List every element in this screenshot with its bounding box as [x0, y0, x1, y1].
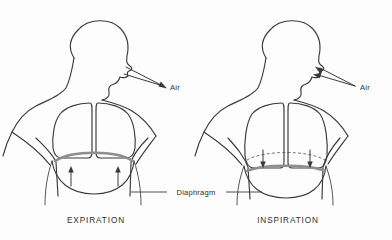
respiration-figure: Air EXPIRATION Diaphragm	[0, 0, 392, 240]
jaw-chest-expiration	[102, 100, 156, 136]
ribcage-left-inspiration	[228, 138, 250, 199]
panel-inspiration: Air INSPIRATION	[195, 21, 370, 225]
air-arrow-inspiration	[313, 67, 355, 87]
diaphragm-arrow-down-1-inspiration	[260, 150, 266, 168]
neck-shoulder-expiration	[3, 58, 74, 156]
head-back-expiration	[71, 30, 78, 58]
head-outline-inspiration	[270, 21, 324, 100]
torso-left-expiration	[12, 132, 50, 165]
diaphragm-arrow-up-2-expiration	[115, 166, 121, 186]
abdomen-right-side-inspiration	[326, 166, 333, 205]
abdomen-outline-expiration	[52, 161, 134, 194]
diaphragm-arrow-up-1-expiration	[68, 166, 74, 186]
head-outline-expiration	[78, 21, 132, 100]
diaphragm-callout: Diaphragm	[131, 188, 262, 197]
abdomen-right-side-expiration	[134, 161, 141, 205]
abdomen-left-side-inspiration	[237, 166, 244, 205]
abdomen-left-side-expiration	[45, 161, 52, 205]
diaphragm-arrow-down-2-inspiration	[307, 150, 313, 168]
abdomen-outline-inspiration	[244, 166, 326, 198]
diaphragm-inspiration	[247, 166, 325, 171]
diaphragm-expiration	[55, 153, 133, 161]
diaphragm-label: Diaphragm	[177, 188, 216, 197]
lung-right-inspiration	[288, 103, 327, 168]
lung-right-expiration	[96, 103, 135, 158]
air-label-expiration: Air	[170, 83, 180, 92]
diaphragm-previous-position-line	[247, 153, 325, 161]
ribcage-right-inspiration	[322, 138, 340, 199]
ribcage-left-expiration	[36, 138, 58, 196]
lung-left-inspiration	[245, 103, 284, 168]
air-label-inspiration: Air	[360, 83, 370, 92]
jaw-chest-inspiration	[294, 100, 348, 136]
caption-inspiration: INSPIRATION	[257, 216, 319, 225]
caption-expiration: EXPIRATION	[67, 216, 125, 225]
lung-left-expiration	[53, 103, 92, 158]
panel-expiration: Air EXPIRATION	[3, 21, 180, 225]
head-back-inspiration	[263, 30, 270, 58]
